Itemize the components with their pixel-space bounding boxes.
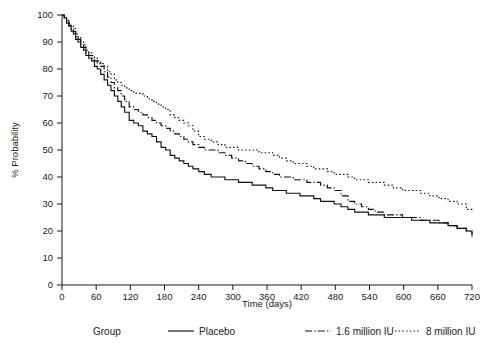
legend-item-placebo[interactable]: Placebo bbox=[168, 326, 236, 337]
y-tick-label: 0 bbox=[48, 279, 53, 290]
x-tick-label: 60 bbox=[91, 291, 102, 302]
y-tick-label: 40 bbox=[42, 171, 53, 182]
legend-item-label: 1.6 million IU bbox=[336, 326, 394, 337]
y-tick-label: 20 bbox=[42, 225, 53, 236]
x-tick-label: 180 bbox=[157, 291, 173, 302]
y-tick-label: 90 bbox=[42, 36, 53, 47]
y-tick-label: 10 bbox=[42, 252, 53, 263]
x-tick-label: 660 bbox=[430, 291, 446, 302]
y-tick-label: 80 bbox=[42, 63, 53, 74]
x-tick-label: 720 bbox=[464, 291, 480, 302]
legend-title: Group bbox=[93, 326, 121, 337]
legend: GroupPlacebo1.6 million IU8 million IU bbox=[93, 326, 475, 337]
chart-figure: 0102030405060708090100 06012018024030036… bbox=[0, 0, 495, 343]
x-tick-label: 600 bbox=[396, 291, 412, 302]
y-tick-label: 30 bbox=[42, 198, 53, 209]
x-tick-label: 540 bbox=[362, 291, 378, 302]
legend-item-label: 8 million IU bbox=[426, 326, 475, 337]
y-tick-label: 50 bbox=[42, 144, 53, 155]
x-tick-label: 480 bbox=[327, 291, 343, 302]
x-tick-label: 120 bbox=[122, 291, 138, 302]
kaplan-meier-plot: 0102030405060708090100 06012018024030036… bbox=[0, 0, 495, 343]
y-tick-label: 100 bbox=[37, 9, 53, 20]
x-tick-label: 420 bbox=[293, 291, 309, 302]
x-tick-label: 240 bbox=[191, 291, 207, 302]
y-tick-label: 70 bbox=[42, 90, 53, 101]
x-tick-label: 300 bbox=[225, 291, 241, 302]
series-line-1-6-million-iu bbox=[62, 15, 472, 234]
legend-item-8-million-iu[interactable]: 8 million IU bbox=[395, 326, 475, 337]
series-line-placebo bbox=[62, 15, 472, 236]
series-line-8-million-iu bbox=[62, 15, 472, 212]
legend-item-label: Placebo bbox=[199, 326, 236, 337]
legend-item-1-6-million-iu[interactable]: 1.6 million IU bbox=[305, 326, 394, 337]
x-tick-label: 0 bbox=[59, 291, 64, 302]
x-axis-title: Time (days) bbox=[242, 298, 292, 309]
y-tick-label: 60 bbox=[42, 117, 53, 128]
series-layer bbox=[62, 15, 472, 236]
y-axis-title: % Probability bbox=[9, 122, 20, 178]
y-axis: 0102030405060708090100 bbox=[37, 9, 62, 290]
